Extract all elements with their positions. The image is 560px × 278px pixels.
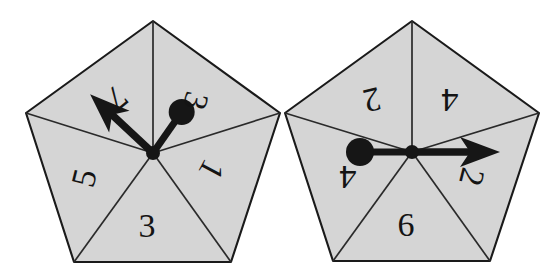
right-sector-s-label: 6: [398, 206, 415, 243]
two-pentagon-diagram: 3135742642: [0, 0, 560, 278]
figure-canvas: 3135742642: [0, 0, 560, 278]
right-pentagon: 42642: [285, 21, 539, 261]
left-pentagon: 31357: [26, 21, 280, 262]
left-pentagon-center-hub: [146, 146, 160, 160]
right-sector-w-label: 4: [340, 159, 357, 196]
left-sector-s-label: 3: [139, 207, 156, 244]
right-pentagon-center-hub: [405, 145, 419, 159]
right-sector-ne-label: 4: [442, 82, 459, 119]
